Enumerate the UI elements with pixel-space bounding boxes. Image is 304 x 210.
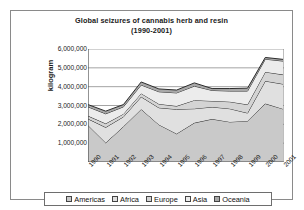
legend-item-europe[interactable]: Europe	[146, 195, 178, 204]
chart-title-line2: (1990-2001)	[11, 26, 292, 36]
plot-area	[88, 49, 284, 162]
y-axis-tick-label: 1,000,000	[39, 139, 87, 146]
legend-item-oceania[interactable]: Oceania	[214, 195, 250, 204]
legend-label: Africa	[120, 195, 139, 204]
chart-frame: Global seizures of cannabis herb and res…	[10, 10, 293, 200]
legend-swatch-icon	[146, 196, 152, 202]
legend-label: Asia	[193, 195, 207, 204]
legend-item-americas[interactable]: Americas	[66, 195, 105, 204]
chart-title-line1: Global seizures of cannabis herb and res…	[75, 16, 228, 25]
y-axis-tick-label: 4,000,000	[39, 83, 87, 90]
y-axis-tick-label: 2,000,000	[39, 120, 87, 127]
y-axis-tick-label: 3,000,000	[39, 102, 87, 109]
x-axis-tick-label: 2001	[282, 153, 297, 168]
legend-item-asia[interactable]: Asia	[185, 195, 207, 204]
legend-label: Americas	[74, 195, 105, 204]
screenshot-root: Global seizures of cannabis herb and res…	[0, 0, 304, 210]
legend-label: Oceania	[222, 195, 250, 204]
legend-swatch-icon	[185, 196, 191, 202]
chart-legend: AmericasAfricaEuropeAsiaOceania	[44, 192, 272, 206]
y-axis-tick-labels: 6,000,0005,000,0004,000,0003,000,0002,00…	[35, 49, 87, 162]
y-axis-tick-label: 5,000,000	[39, 64, 87, 71]
chart-title: Global seizures of cannabis herb and res…	[11, 16, 292, 36]
x-axis-tick-labels: 1990199119921993199419951996199719981999…	[88, 163, 288, 193]
stacked-area-plot	[88, 49, 284, 162]
legend-item-africa[interactable]: Africa	[112, 195, 139, 204]
legend-swatch-icon	[214, 196, 220, 202]
y-axis-tick-label: 6,000,000	[39, 45, 87, 52]
legend-label: Europe	[154, 195, 178, 204]
legend-swatch-icon	[66, 196, 72, 202]
legend-swatch-icon	[112, 196, 118, 202]
